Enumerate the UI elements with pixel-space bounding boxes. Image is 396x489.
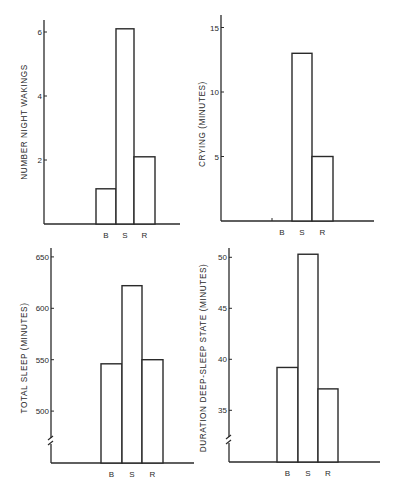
y-tick-label: 550 (36, 356, 50, 365)
category-label: S (305, 469, 310, 478)
bar-R (134, 157, 155, 224)
y-tick-label: 650 (36, 253, 50, 262)
category-label: R (325, 469, 331, 478)
category-label: B (103, 231, 108, 240)
category-label: B (109, 470, 114, 479)
y-tick-label: 5 (215, 153, 220, 162)
y-axis-label: NUMBER NIGHT WAKINGS (20, 64, 29, 180)
y-tick-label: 4 (38, 92, 43, 101)
bar-R (312, 157, 333, 222)
bar-S (298, 254, 318, 462)
panel-deep-sleep: DURATION DEEP-SLEEP STATE (MINUTES) 3540… (199, 248, 380, 478)
y-tick-label: 6 (38, 28, 43, 37)
y-tick-label: 40 (218, 355, 227, 364)
category-label: S (122, 231, 127, 240)
panel-night-wakings: NUMBER NIGHT WAKINGS 246BSR (20, 20, 180, 240)
y-tick-label: 600 (36, 304, 50, 313)
y-axis-label: DURATION DEEP-SLEEP STATE (MINUTES) (199, 264, 208, 453)
category-label: B (279, 228, 284, 237)
y-tick-label: 45 (218, 304, 227, 313)
panel-total-sleep: TOTAL SLEEP (MINUTES) 500550600650BSR (20, 248, 194, 479)
panel-crying: CRYING (MINUTES) 51015BSR (198, 15, 374, 237)
y-axis-label: TOTAL SLEEP (MINUTES) (20, 302, 29, 413)
bar-B (277, 367, 298, 462)
y-tick-label: 15 (210, 24, 219, 33)
y-axis-label: CRYING (MINUTES) (198, 81, 207, 167)
category-label: R (320, 228, 326, 237)
category-label: R (150, 470, 156, 479)
bar-S (122, 286, 142, 463)
bar-R (142, 360, 163, 463)
category-label: R (142, 231, 148, 240)
y-tick-label: 10 (210, 88, 219, 97)
category-label: B (285, 469, 290, 478)
y-tick-label: 50 (218, 253, 227, 262)
bar-S (116, 29, 134, 224)
y-tick-label: 2 (38, 156, 43, 165)
bar-R (318, 389, 338, 462)
y-tick-label: 500 (36, 407, 50, 416)
bar-S (292, 53, 312, 221)
category-label: S (129, 470, 134, 479)
bar-B (96, 189, 116, 224)
figure: NUMBER NIGHT WAKINGS 246BSR CRYING (MINU… (0, 0, 396, 489)
bar-B (101, 364, 122, 463)
chart-canvas: NUMBER NIGHT WAKINGS 246BSR CRYING (MINU… (0, 0, 396, 489)
y-tick-label: 35 (218, 406, 227, 415)
category-label: S (299, 228, 304, 237)
